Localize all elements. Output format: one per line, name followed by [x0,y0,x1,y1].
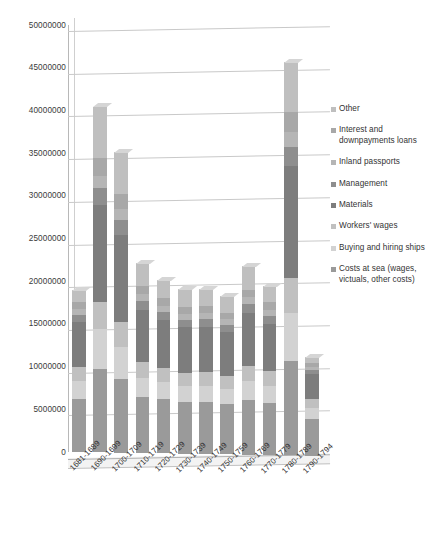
bar-stack [263,286,277,455]
bar-top-face [242,263,261,267]
bar-segment [72,302,86,309]
bar-segment [114,235,128,322]
bar-segment [136,362,150,378]
bar-segment [136,378,150,398]
bar-segment [263,324,277,371]
bar-segment [93,188,107,204]
bar-top-face [157,277,176,281]
legend-swatch-icon [331,224,336,229]
bar-segment [199,313,213,319]
legend-swatch-icon [331,128,336,133]
bar-segment [242,304,256,313]
legend-item: Materials [331,200,439,210]
gridline [68,26,330,32]
legend-label: Workers' wages [339,221,398,231]
legend-swatch-icon [331,107,336,112]
bar-top-face [199,286,218,290]
legend-swatch-icon [331,160,336,165]
bar-segment [220,319,234,325]
figure-caption [0,540,440,546]
bar-stack [242,266,256,455]
bar-segment [242,266,256,290]
bar-segment [136,301,150,310]
bar-segment [93,205,107,302]
bar-segment [220,325,234,332]
bar-segment [263,302,277,309]
legend-item: Buying and hiring ships [331,243,439,253]
bar-segment [220,389,234,404]
bar-segment [114,322,128,347]
y-axis-line [68,25,69,452]
bar-segment [263,316,277,324]
bar-segment [242,297,256,304]
bar-segment [263,310,277,316]
x-axis: 1681-16891690-16991700-17091710-17191720… [68,462,348,546]
bar-segment [93,302,107,329]
legend-item: Workers' wages [331,221,439,231]
legend-label: Buying and hiring ships [339,243,425,253]
bar-segment [136,263,150,287]
bar-segment [284,62,298,112]
bar-segment [136,310,150,362]
bar-segment [114,220,128,235]
bar-top-face [178,286,197,290]
bar-top-face [72,287,91,291]
legend-item: Costs at sea (wages, victuals, other cos… [331,264,439,285]
y-axis-tick-label: 30000000 [4,191,66,200]
bar-segment [284,278,298,313]
bar-segment [284,112,298,132]
bar-segment [72,381,86,399]
bar-segment [199,386,213,402]
bar-top-face [220,293,239,297]
bar-segment [305,370,319,374]
bar-segment [178,386,192,402]
bar-segment [242,381,256,400]
bar-segment [72,315,86,323]
y-axis-tick-label: 15000000 [4,319,66,328]
bar-segment [199,372,213,386]
bar-segment [178,307,192,314]
y-axis-tick-label: 35000000 [4,149,66,158]
bar-top-face [114,149,133,153]
bar-segment [157,306,171,312]
y-axis-tick-label: 5000000 [4,405,66,414]
bar-segment [72,309,86,315]
y-axis-tick-label: 50000000 [4,21,66,30]
bar-segment [199,289,213,306]
bar-segment [284,132,298,147]
bar-stack [157,280,171,453]
bar-segment [136,286,150,294]
bar-top-face [305,354,324,358]
bar-segment [136,294,150,301]
bar-segment [178,314,192,320]
bar-segment [199,319,213,327]
bar-top-face [93,103,112,107]
bar-segment [284,166,298,279]
bar-segment [72,399,86,452]
bar-segment [93,176,107,189]
y-axis-tick-label: 45000000 [4,63,66,72]
bar-segment [157,320,171,368]
bar-stack [136,263,150,453]
legend-item: Interest and downpayments loans [331,125,439,146]
bar-stack [199,289,213,454]
bar-segment [199,327,213,372]
bar-segment [305,408,319,419]
legend-item: Other [331,104,439,114]
bar-segment [263,286,277,302]
bar-segment [72,367,86,381]
bar-segment [178,373,192,387]
bar-segment [157,382,171,399]
legend-label: Inland passports [339,157,400,167]
bar-stack [220,296,234,454]
bar-segment [157,368,171,383]
y-axis-tick-label: 20000000 [4,277,66,286]
bar-segment [220,296,234,313]
bar-segment [284,313,298,361]
y-axis-tick-label: 0 [4,448,66,457]
legend-label: Other [339,104,360,114]
bar-segment [199,306,213,313]
legend-item: Inland passports [331,157,439,167]
bar-segment [178,320,192,328]
bar-segment [305,399,319,408]
